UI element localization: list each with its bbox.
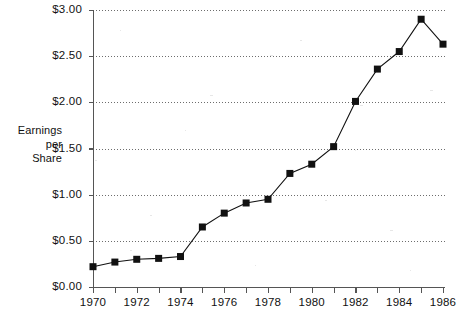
data-point-1978 [265,196,272,203]
earnings-per-share-chart: Earnings per Share $0.00$0.50$1.00$1.50$… [0,0,461,316]
data-point-1979 [286,170,293,177]
scan-speckle-texture [95,30,433,271]
data-point-1980 [308,161,315,168]
axis-lines [93,10,445,288]
data-point-1983 [374,66,381,73]
data-point-1984 [396,48,403,55]
data-point-1974 [177,253,184,260]
data-point-1973 [155,255,162,262]
gridlines [93,11,445,242]
data-point-1976 [221,210,228,217]
data-point-1977 [243,199,250,206]
chart-plot-area [0,0,461,316]
data-point-1975 [199,223,206,230]
data-point-1982 [352,98,359,105]
data-point-1986 [440,41,447,48]
data-point-markers [90,16,447,270]
tick-marks [89,11,444,294]
data-point-1981 [330,143,337,150]
data-point-1985 [418,16,425,23]
data-point-1972 [133,256,140,263]
data-point-1970 [90,263,97,270]
data-point-1971 [111,259,118,266]
